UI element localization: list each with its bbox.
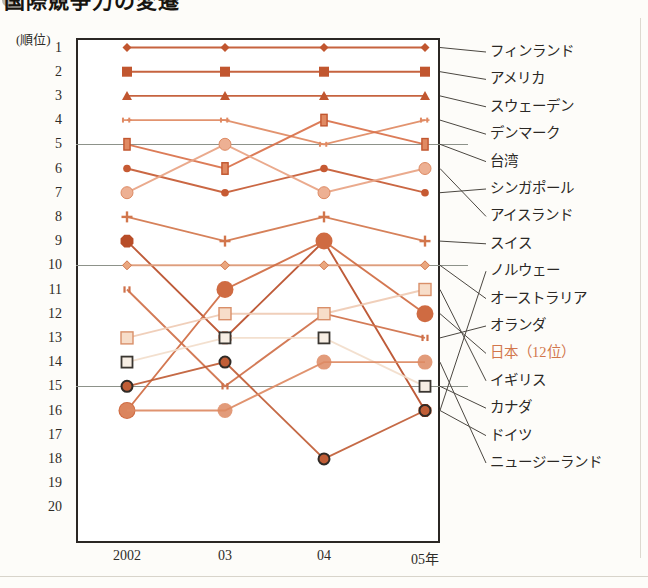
- legend-item-8[interactable]: ノルウェー: [490, 263, 560, 278]
- legend-item-4[interactable]: 台湾: [490, 154, 518, 169]
- y-tick-5: 5: [22, 137, 62, 151]
- y-tick-6: 6: [22, 162, 62, 176]
- legend-item-5[interactable]: シンガポール: [490, 181, 574, 196]
- y-tick-3: 3: [22, 89, 62, 103]
- legend-leader-lines: [440, 48, 486, 464]
- y-tick-7: 7: [22, 186, 62, 200]
- y-tick-10: 10: [22, 258, 62, 272]
- plot-frame: [76, 38, 440, 543]
- y-tick-17: 17: [22, 428, 62, 442]
- gridline-rank-15: [76, 386, 468, 387]
- legend-item-14[interactable]: ドイツ: [490, 428, 532, 443]
- legend-item-1[interactable]: アメリカ: [490, 71, 545, 86]
- y-tick-11: 11: [22, 283, 62, 297]
- gridline-rank-5: [76, 144, 468, 145]
- legend-item-13[interactable]: カナダ: [490, 400, 532, 415]
- legend-item-9[interactable]: オーストラリア: [490, 291, 587, 306]
- y-tick-2: 2: [22, 65, 62, 79]
- legend-item-11[interactable]: 日本（12位）: [490, 345, 575, 360]
- chart-title-strip: 国際競争力の変遷: [0, 0, 648, 18]
- x-tick-2002: 2002: [89, 548, 165, 564]
- legend-item-2[interactable]: スウェーデン: [490, 99, 574, 114]
- y-tick-18: 18: [22, 452, 62, 466]
- x-tick-04: 04: [286, 548, 362, 564]
- y-tick-4: 4: [22, 113, 62, 127]
- bottom-rule: [0, 576, 648, 577]
- legend-item-12[interactable]: イギリス: [490, 373, 546, 388]
- page-title: 国際競争力の変遷: [4, 0, 180, 14]
- legend-item-15[interactable]: ニュージーランド: [490, 455, 602, 470]
- y-tick-1: 1: [22, 41, 62, 55]
- y-tick-13: 13: [22, 331, 62, 345]
- y-tick-20: 20: [22, 500, 62, 514]
- y-tick-14: 14: [22, 355, 62, 369]
- right-rule: [640, 18, 641, 558]
- x-tick-03: 03: [187, 548, 263, 564]
- legend-item-3[interactable]: デンマーク: [490, 126, 560, 141]
- x-tick-05年: 05年: [387, 548, 463, 568]
- legend-item-0[interactable]: フィンランド: [490, 44, 574, 59]
- y-tick-8: 8: [22, 210, 62, 224]
- y-tick-15: 15: [22, 379, 62, 393]
- y-tick-16: 16: [22, 404, 62, 418]
- y-tick-9: 9: [22, 234, 62, 248]
- gridline-rank-10: [76, 265, 468, 266]
- legend-item-6[interactable]: アイスランド: [490, 208, 573, 223]
- y-tick-19: 19: [22, 476, 62, 490]
- legend-item-7[interactable]: スイス: [490, 236, 532, 251]
- y-tick-12: 12: [22, 307, 62, 321]
- legend-item-10[interactable]: オランダ: [490, 318, 546, 333]
